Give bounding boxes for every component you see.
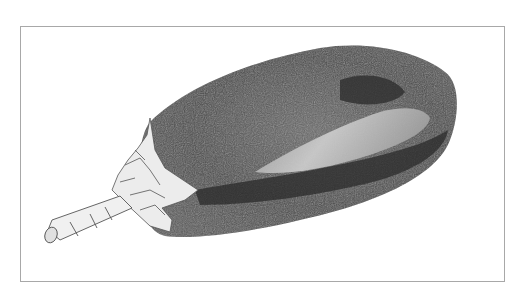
eggplant-body xyxy=(139,45,457,237)
stem xyxy=(43,196,132,245)
eggplant-illustration xyxy=(0,0,532,287)
